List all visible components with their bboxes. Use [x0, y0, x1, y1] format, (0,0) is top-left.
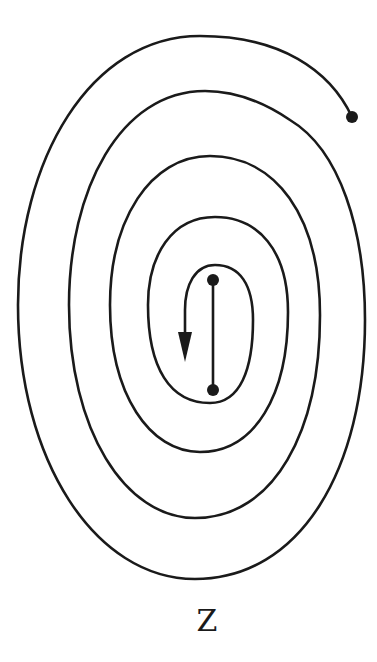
arrow-head-icon [178, 332, 192, 362]
center-dot-top [207, 274, 219, 286]
figure-label: Z [0, 603, 377, 638]
center-dot-bottom [207, 384, 219, 396]
spiral-curve [18, 36, 365, 579]
start-dot-outer [346, 111, 358, 123]
spiral-diagram [0, 0, 377, 662]
